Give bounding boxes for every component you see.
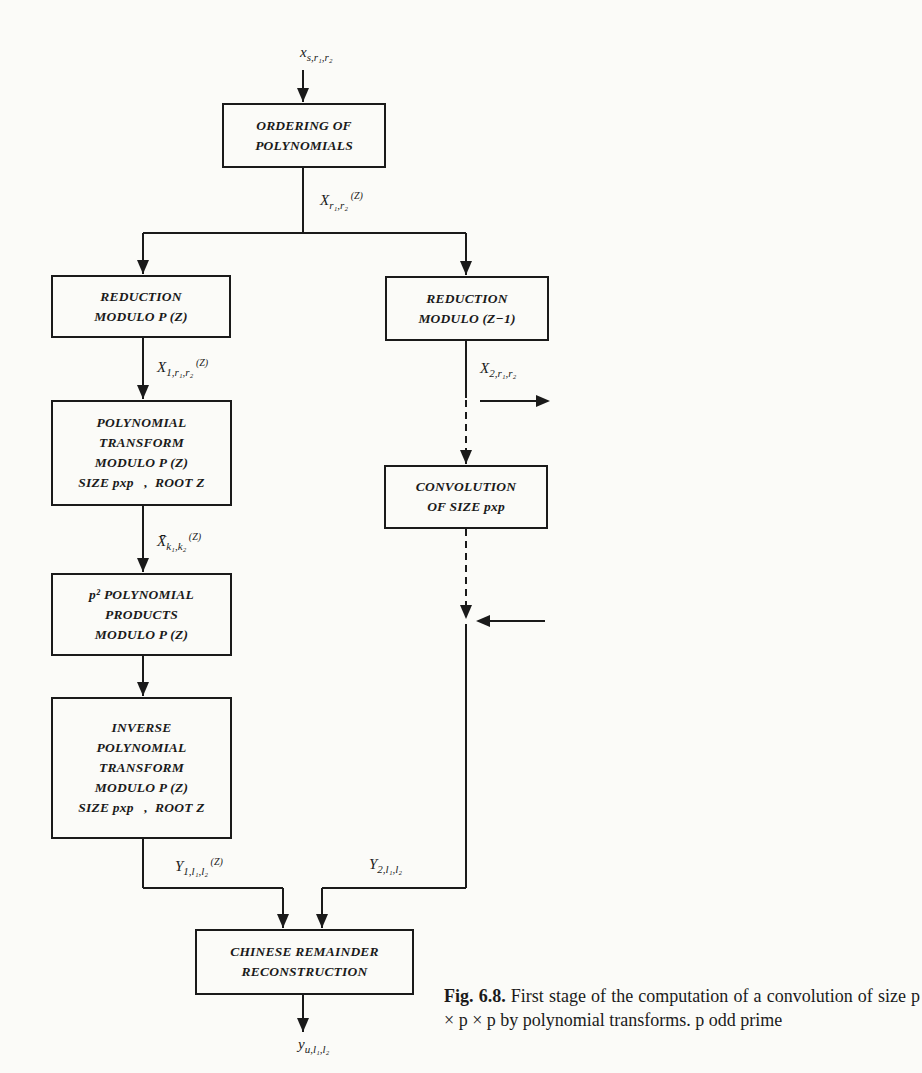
box-line: MODULO P (Z) bbox=[95, 625, 188, 645]
label-x2: X2,r₁,r₂ bbox=[480, 360, 516, 379]
label-y2: Y2,l₁,l₂ bbox=[369, 856, 402, 875]
reduction-modulo-z-minus-1-box: REDUCTION MODULO (Z−1) bbox=[385, 276, 549, 341]
convolution-box: CONVOLUTION OF SIZE pxp bbox=[384, 465, 548, 529]
box-line: p² POLYNOMIAL bbox=[89, 585, 194, 605]
box-line: POLYNOMIAL bbox=[97, 413, 187, 433]
label-xbar: X̄k₁,k₂ (Z) bbox=[157, 531, 201, 552]
box-line: SIZE pxp , ROOT Z bbox=[78, 798, 204, 818]
polynomial-products-box: p² POLYNOMIAL PRODUCTS MODULO P (Z) bbox=[51, 573, 232, 656]
box-line: ORDERING OF bbox=[256, 116, 352, 136]
box-line: MODULO (Z−1) bbox=[418, 309, 515, 329]
box-line: INVERSE bbox=[112, 718, 172, 738]
box-line: MODULO P (Z) bbox=[94, 307, 187, 327]
box-line: TRANSFORM bbox=[99, 433, 184, 453]
box-line: RECONSTRUCTION bbox=[242, 962, 368, 982]
box-line: MODULO P (Z) bbox=[95, 778, 188, 798]
figure-number: Fig. 6.8. bbox=[444, 986, 506, 1006]
box-line: OF SIZE pxp bbox=[427, 497, 505, 517]
inverse-polynomial-transform-box: INVERSE POLYNOMIAL TRANSFORM MODULO P (Z… bbox=[51, 697, 232, 839]
figure-caption: Fig. 6.8. First stage of the computation… bbox=[444, 984, 920, 1032]
flow-diagram: ORDERING OF POLYNOMIALS REDUCTION MODULO… bbox=[0, 0, 922, 1073]
connector-lines bbox=[0, 0, 922, 1073]
box-line: REDUCTION bbox=[100, 287, 181, 307]
polynomial-transform-box: POLYNOMIAL TRANSFORM MODULO P (Z) SIZE p… bbox=[51, 400, 232, 506]
box-line: POLYNOMIAL bbox=[97, 738, 187, 758]
box-line: MODULO P (Z) bbox=[95, 453, 188, 473]
box-line: TRANSFORM bbox=[99, 758, 184, 778]
label-ordered: Xr₁,r₂ (Z) bbox=[320, 190, 363, 211]
caption-text: First stage of the computation of a conv… bbox=[444, 986, 920, 1030]
label-x1: X1,r₁,r₂ (Z) bbox=[157, 357, 208, 378]
reduction-modulo-p-box: REDUCTION MODULO P (Z) bbox=[51, 275, 231, 338]
label-y1: Y1,l₁,l₂ (Z) bbox=[175, 856, 223, 877]
label-input: xs,r₁,r₂ bbox=[300, 44, 333, 63]
box-line: SIZE pxp , ROOT Z bbox=[78, 473, 204, 493]
box-line: PRODUCTS bbox=[105, 605, 178, 625]
chinese-remainder-box: CHINESE REMAINDER RECONSTRUCTION bbox=[195, 929, 414, 995]
box-line: CONVOLUTION bbox=[416, 477, 516, 497]
box-line: REDUCTION bbox=[426, 289, 507, 309]
ordering-of-polynomials-box: ORDERING OF POLYNOMIALS bbox=[222, 103, 386, 168]
label-output: yu,l₁,l₂ bbox=[298, 1036, 329, 1055]
box-line: CHINESE REMAINDER bbox=[230, 942, 379, 962]
box-line: POLYNOMIALS bbox=[255, 136, 353, 156]
